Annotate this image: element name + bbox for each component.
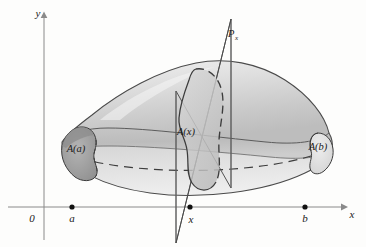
x-axis-arrow: [341, 204, 348, 211]
y-axis-label: y: [35, 7, 41, 19]
cap-b-shape: [310, 133, 333, 174]
tick-label-x: x: [188, 213, 194, 225]
tick-dot-a: [69, 204, 74, 209]
cross-section-b-label: A(b): [308, 141, 328, 153]
origin-label: 0: [29, 212, 35, 224]
y-axis-arrow: [41, 12, 48, 19]
tick-dot-x: [187, 204, 192, 209]
cross-section-x-label: A(x): [176, 126, 196, 138]
plane-label-subscript: x: [234, 34, 239, 42]
x-axis-label: x: [349, 208, 355, 220]
tick-dot-b: [302, 204, 307, 209]
plane-label-main: P: [227, 28, 235, 39]
cross-section-b: [310, 133, 333, 174]
figure-container: y x 0 a x b A(a) A(x) A(b) Px: [0, 0, 366, 247]
tick-label-b: b: [302, 212, 308, 224]
tick-label-a: a: [69, 212, 75, 224]
plane-label: Px: [227, 28, 239, 42]
cross-section-a-label: A(a): [66, 143, 86, 155]
